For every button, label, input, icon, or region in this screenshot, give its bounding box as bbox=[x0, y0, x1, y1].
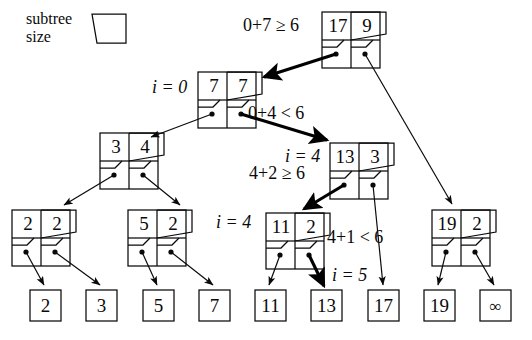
annotation-index-i4-left: i = 4 bbox=[216, 213, 251, 231]
node-5-2-size: 2 bbox=[160, 214, 186, 233]
node-19-2-size: 2 bbox=[464, 214, 490, 233]
leaf-value-19: 19 bbox=[424, 296, 455, 315]
node-17-9-size: 9 bbox=[354, 16, 380, 35]
node-13-3-key: 13 bbox=[331, 147, 359, 166]
node-19-2-key: 19 bbox=[433, 214, 461, 233]
annotation-compare-root: 0+7 ≥ 6 bbox=[243, 16, 299, 34]
node-11-2-size: 2 bbox=[298, 217, 324, 236]
node-2-2-size: 2 bbox=[44, 214, 70, 233]
annotation-index-i5: i = 5 bbox=[332, 266, 367, 284]
node-7-7-size: 7 bbox=[230, 76, 256, 95]
node-7-7-key: 7 bbox=[201, 76, 227, 95]
leaf-value-5: 5 bbox=[143, 296, 174, 315]
legend-shape bbox=[92, 14, 126, 43]
annotation-compare-mid: 4+2 ≥ 6 bbox=[249, 164, 305, 182]
leaf-value-11: 11 bbox=[255, 296, 286, 315]
node-3-4-size: 4 bbox=[132, 137, 158, 156]
node-17-9-key: 17 bbox=[325, 16, 351, 35]
annotation-index-i0: i = 0 bbox=[152, 78, 187, 96]
legend-label-line1: subtree bbox=[26, 10, 72, 27]
leaf-value-7: 7 bbox=[199, 296, 230, 315]
legend-label-line2: size bbox=[26, 28, 51, 45]
figure-canvas: subtree size 17 9 7 7 3 4 2 2 5 2 13 3 1… bbox=[0, 0, 532, 340]
annotation-compare-low: 4+1 < 6 bbox=[327, 228, 383, 246]
node-5-2-key: 5 bbox=[131, 214, 157, 233]
leaf-value-13: 13 bbox=[311, 296, 342, 315]
node-11-2-key: 11 bbox=[267, 217, 295, 236]
leaf-value-infinity: ∞ bbox=[480, 298, 511, 315]
leaf-value-3: 3 bbox=[86, 296, 117, 315]
node-13-3-size: 3 bbox=[362, 147, 388, 166]
leaf-value-2: 2 bbox=[30, 296, 61, 315]
annotation-index-i4-right: i = 4 bbox=[285, 147, 320, 165]
node-2-2-key: 2 bbox=[15, 214, 41, 233]
leaf-value-17: 17 bbox=[368, 296, 399, 315]
annotation-compare-left: 0+4 < 6 bbox=[248, 104, 304, 122]
node-3-4-key: 3 bbox=[103, 137, 129, 156]
